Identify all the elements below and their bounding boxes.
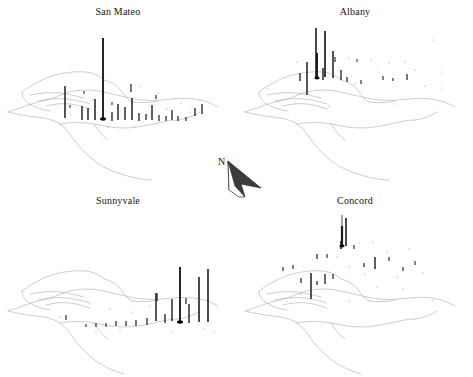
map-point (119, 329, 120, 330)
map-point (133, 125, 134, 126)
map-point (414, 69, 415, 70)
map-point (394, 103, 395, 104)
map-point (107, 126, 108, 127)
map-point (348, 57, 349, 58)
map-point (147, 115, 148, 116)
coastline-albany (245, 72, 455, 180)
map-point (386, 251, 387, 252)
map-point (424, 85, 425, 86)
map-sunnyvale (0, 189, 236, 377)
map-point (370, 59, 371, 60)
map-point (388, 62, 389, 63)
map-concord (237, 189, 473, 377)
map-point (189, 111, 190, 112)
bars-albany (300, 28, 407, 95)
map-point (377, 71, 378, 72)
coastline-concord (245, 271, 455, 374)
bars-concord (283, 218, 415, 299)
map-point (119, 111, 120, 112)
origin-marker-sunnyvale (177, 320, 183, 323)
map-point (266, 88, 267, 89)
bars-san-mateo (65, 38, 202, 121)
origin-marker[interactable] (177, 320, 183, 323)
map-point (348, 300, 349, 301)
north-arrow-label: N (218, 156, 225, 167)
map-point (328, 105, 329, 106)
dots-san-mateo (59, 85, 190, 127)
map-point (441, 87, 442, 88)
map-point (180, 102, 181, 103)
figure-canvas: San Mateo Albany (0, 0, 473, 377)
map-point (59, 124, 60, 125)
map-point (336, 256, 337, 257)
map-point (149, 305, 150, 306)
map-point (422, 272, 423, 273)
coastline-sunnyvale (8, 271, 218, 374)
map-point (441, 71, 442, 72)
map-point (109, 308, 110, 309)
map-point (166, 108, 167, 109)
map-point (213, 331, 214, 332)
map-point (396, 276, 397, 277)
origin-marker-san-mateo (100, 117, 106, 120)
coastline-san-mateo (8, 72, 218, 180)
map-point (364, 273, 365, 274)
north-arrow-glyph (205, 150, 275, 212)
panel-sunnyvale[interactable]: Sunnyvale (0, 189, 236, 377)
origin-marker[interactable] (314, 77, 319, 80)
map-point (348, 266, 349, 267)
map-point (408, 248, 409, 249)
map-point (286, 300, 287, 301)
panel-san-mateo[interactable]: San Mateo (0, 0, 236, 188)
panel-concord[interactable]: Concord (237, 189, 473, 377)
dots-albany (266, 39, 442, 106)
map-point (358, 242, 359, 243)
map-point (376, 286, 377, 287)
dots-sunnyvale (59, 305, 214, 332)
map-point (95, 330, 96, 331)
map-point (203, 328, 204, 329)
map-point (296, 61, 297, 62)
north-arrow: N (205, 150, 275, 212)
map-point (300, 293, 301, 294)
map-san-mateo (0, 0, 236, 188)
map-point (402, 288, 403, 289)
map-point (91, 99, 92, 100)
map-point (171, 331, 172, 332)
origin-marker[interactable] (100, 117, 106, 120)
map-point (432, 39, 433, 40)
map-point (69, 113, 70, 114)
map-point (404, 61, 405, 62)
map-point (157, 92, 158, 93)
map-point (372, 241, 373, 242)
map-point (139, 85, 140, 86)
map-point (432, 300, 433, 301)
origin-marker[interactable] (339, 245, 344, 248)
map-point (131, 311, 132, 312)
map-point (59, 316, 60, 317)
origin-marker-albany (314, 77, 319, 80)
bars-sunnyvale (66, 267, 208, 327)
map-point (354, 83, 355, 84)
origin-marker-concord (339, 245, 344, 248)
